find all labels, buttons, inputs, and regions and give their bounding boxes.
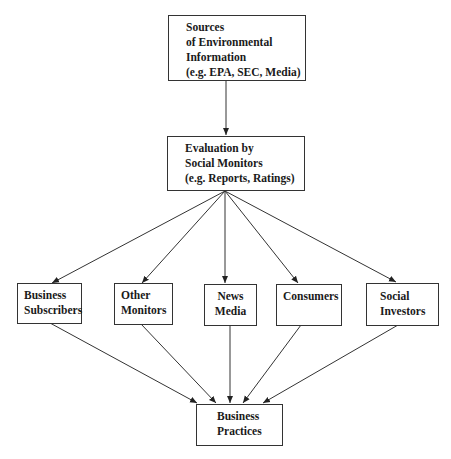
node-social-investors-line-2: Investors xyxy=(380,304,438,319)
node-sources-line-4: (e.g. EPA, SEC, Media) xyxy=(186,65,305,80)
node-business-subscribers-line-2: Subscribers xyxy=(24,303,81,318)
node-news-media: News Media xyxy=(204,284,257,326)
node-sources-line-1: Sources xyxy=(186,20,305,35)
edge-evaluation-other-monitors xyxy=(142,191,225,283)
edge-evaluation-consumers xyxy=(225,191,298,283)
node-social-investors: Social Investors xyxy=(366,283,439,326)
node-other-monitors-line-2: Monitors xyxy=(121,303,172,318)
node-business-subscribers: Business Subscribers xyxy=(17,283,82,324)
node-business-practices-line-2: Practices xyxy=(217,424,282,439)
node-evaluation-line-3: (e.g. Reports, Ratings) xyxy=(185,171,304,186)
node-sources-line-2: of Environmental xyxy=(186,35,305,50)
node-evaluation-line-2: Social Monitors xyxy=(185,156,304,171)
node-consumers: Consumers xyxy=(276,284,342,326)
edge-social-investors-practices xyxy=(263,325,398,403)
node-sources: Sources of Environmental Information (e.… xyxy=(168,15,306,81)
node-news-media-line-1: News xyxy=(205,289,256,304)
node-business-practices-line-1: Business xyxy=(217,409,282,424)
node-business-practices: Business Practices xyxy=(196,404,283,446)
edge-business-subscribers-practices xyxy=(50,323,197,403)
node-social-investors-line-1: Social xyxy=(380,289,438,304)
node-business-subscribers-line-1: Business xyxy=(24,288,81,303)
node-sources-line-3: Information xyxy=(186,50,305,65)
node-other-monitors-line-1: Other xyxy=(121,288,172,303)
node-consumers-line-1: Consumers xyxy=(283,289,341,304)
edge-evaluation-social-investors xyxy=(225,191,396,282)
edge-consumers-practices xyxy=(243,325,301,403)
node-news-media-line-2: Media xyxy=(205,304,256,319)
node-evaluation: Evaluation by Social Monitors (e.g. Repo… xyxy=(167,136,305,191)
edge-other-monitors-practices xyxy=(141,324,216,403)
edge-evaluation-business-subscribers xyxy=(52,191,225,283)
node-other-monitors: Other Monitors xyxy=(114,283,173,325)
node-evaluation-line-1: Evaluation by xyxy=(185,141,304,156)
